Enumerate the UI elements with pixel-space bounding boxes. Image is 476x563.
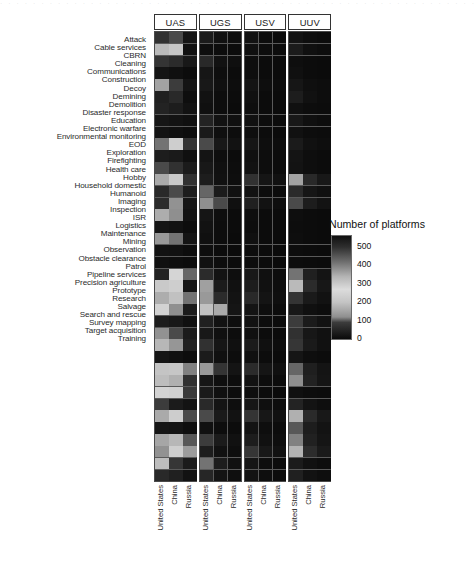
heatmap-cell (183, 233, 197, 244)
heatmap-cell (214, 103, 228, 114)
heatmap-cell (214, 138, 228, 149)
heatmap-cell (289, 304, 303, 315)
heatmap-cell (317, 422, 331, 433)
heatmap-cell (289, 470, 303, 481)
heatmap-cell (169, 446, 183, 457)
heatmap-cell (317, 257, 331, 268)
heatmap-cell (273, 91, 287, 102)
heatmap-cell (245, 79, 259, 90)
heatmap-cell (228, 316, 242, 327)
heatmap-cell (317, 233, 331, 244)
heatmap-cell (155, 446, 169, 457)
heatmap-cell (169, 198, 183, 209)
heatmap-cell (245, 32, 259, 43)
heatmap-cell (259, 410, 273, 421)
heatmap-cell (155, 198, 169, 209)
panel-ugs: UGSUnited StatesChinaRussia (199, 14, 242, 541)
country-tick-label: United States (157, 485, 165, 531)
country-tick-label: Russia (319, 485, 327, 508)
heatmap-cell (303, 339, 317, 350)
heatmap-cell (183, 304, 197, 315)
heatmap-cell (214, 304, 228, 315)
heatmap-cell (317, 375, 331, 386)
heatmap-cell (245, 127, 259, 138)
heatmap-cell (289, 257, 303, 268)
panel-uuv: UUVUnited StatesChinaRussia (288, 14, 331, 541)
heatmap-cell (200, 79, 214, 90)
heatmap-cell (228, 292, 242, 303)
heatmap-cell (259, 458, 273, 469)
heatmap-cell (303, 209, 317, 220)
heatmap-cell (200, 67, 214, 78)
heatmap-cell (289, 316, 303, 327)
country-tick: China (168, 485, 182, 541)
heatmap-cell (245, 470, 259, 481)
country-tick: Russia (182, 485, 196, 541)
heatmap-cell (200, 32, 214, 43)
heatmap-cell (200, 422, 214, 433)
heatmap-cell (169, 410, 183, 421)
heatmap-cell (200, 150, 214, 161)
heatmap-cell (317, 56, 331, 67)
country-tick-label: Russia (185, 485, 193, 508)
heatmap-cell (259, 387, 273, 398)
heatmap-cell (155, 79, 169, 90)
heatmap-cell (155, 304, 169, 315)
heatmap-figure: · · · · · · · · · · · · · · · · · · · · … (0, 0, 476, 563)
heatmap-cell (317, 292, 331, 303)
heatmap-cell (183, 375, 197, 386)
heatmap-cell (183, 280, 197, 291)
heatmap-cell (245, 269, 259, 280)
heatmap-cell (245, 245, 259, 256)
heatmap-cell (155, 67, 169, 78)
heatmap-cell (317, 174, 331, 185)
heatmap-cell (289, 387, 303, 398)
heatmap-cell (169, 245, 183, 256)
heatmap-cell (273, 32, 287, 43)
country-tick-label: Russia (275, 485, 283, 508)
heatmap-cell (317, 446, 331, 457)
heatmap-cell (273, 422, 287, 433)
heatmap-cell (200, 470, 214, 481)
heatmap-cell (200, 399, 214, 410)
heatmap-cell (289, 103, 303, 114)
heatmap-cell (245, 233, 259, 244)
heatmap-cell (259, 363, 273, 374)
heatmap-cell (259, 304, 273, 315)
legend: Number of platforms 0100200300400500 (331, 218, 471, 340)
heatmap-cell (214, 292, 228, 303)
heatmap-cell (303, 292, 317, 303)
heatmap-cell (259, 67, 273, 78)
heatmap-cell (169, 363, 183, 374)
country-tick-label: United States (247, 485, 255, 531)
heatmap-cell (303, 280, 317, 291)
heatmap-cell (214, 162, 228, 173)
heatmap-grid (199, 31, 242, 482)
heatmap-cell (155, 103, 169, 114)
heatmap-cell (303, 399, 317, 410)
heatmap-cell (317, 458, 331, 469)
heatmap-cell (303, 127, 317, 138)
heatmap-cell (183, 363, 197, 374)
heatmap-cell (214, 351, 228, 362)
heatmap-cell (303, 375, 317, 386)
heatmap-cell (259, 138, 273, 149)
heatmap-cell (155, 91, 169, 102)
heatmap-cell (155, 221, 169, 232)
heatmap-cell (169, 257, 183, 268)
heatmap-cell (289, 269, 303, 280)
heatmap-cell (155, 257, 169, 268)
panel-header: USV (244, 14, 287, 30)
heatmap-cell (289, 446, 303, 457)
country-tick: China (258, 485, 272, 541)
heatmap-cell (289, 221, 303, 232)
heatmap-cell (289, 292, 303, 303)
heatmap-cell (183, 221, 197, 232)
heatmap-cell (214, 434, 228, 445)
heatmap-cell (214, 198, 228, 209)
heatmap-cell (273, 269, 287, 280)
heatmap-cell (273, 304, 287, 315)
heatmap-cell (289, 44, 303, 55)
heatmap-cell (303, 198, 317, 209)
heatmap-cell (245, 446, 259, 457)
